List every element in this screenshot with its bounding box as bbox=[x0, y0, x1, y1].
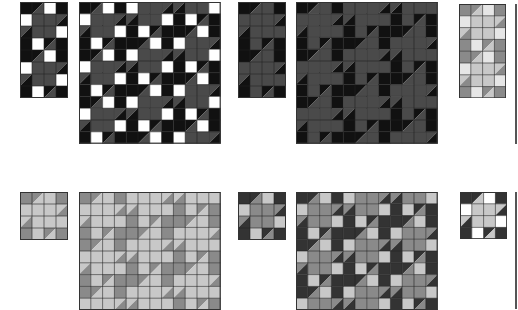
pattern-panel-r2-block-b bbox=[238, 192, 286, 240]
pattern-panel-r1-field-b bbox=[296, 2, 438, 144]
pattern-panel-r1-block-a bbox=[20, 2, 68, 98]
right-edge-divider-top bbox=[515, 4, 517, 144]
pattern-panel-r1-field-a bbox=[79, 2, 221, 144]
pattern-panel-r2-block-a bbox=[20, 192, 68, 240]
pattern-panel-r2-field-b bbox=[296, 192, 438, 310]
pattern-panel-r1-block-b bbox=[238, 2, 286, 98]
pattern-panel-r2-field-a bbox=[79, 192, 221, 310]
right-edge-divider-bottom bbox=[515, 192, 517, 309]
pattern-panel-r1-block-c bbox=[459, 4, 506, 98]
pattern-panel-r2-block-c bbox=[460, 192, 507, 239]
